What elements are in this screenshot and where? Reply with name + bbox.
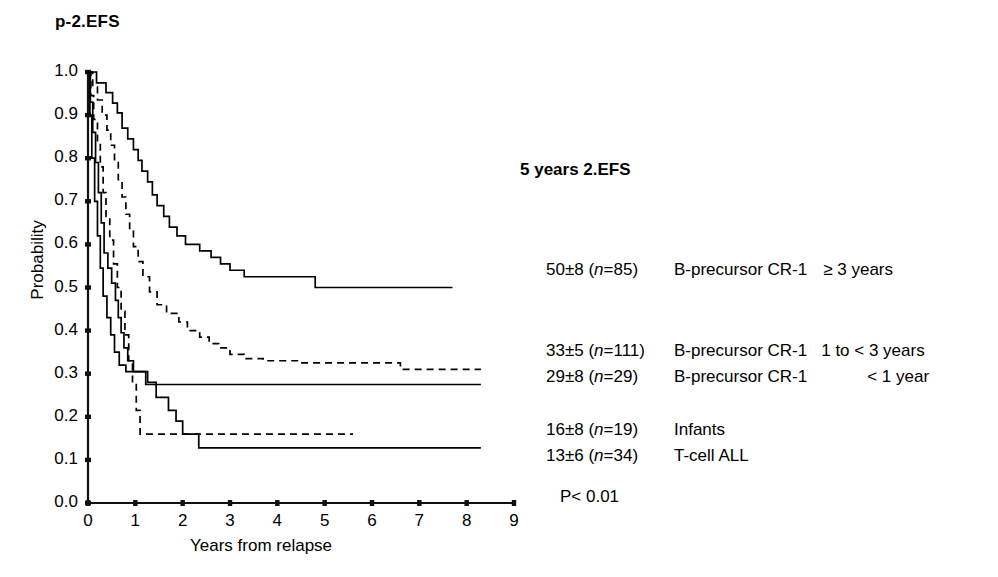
legend-stat: 29±8 (n=29) xyxy=(546,367,674,387)
y-tick-mark xyxy=(85,328,91,332)
y-tick-label: 0.0 xyxy=(36,492,78,512)
x-tick-label: 8 xyxy=(457,511,477,531)
x-tick-mark xyxy=(228,500,232,506)
x-tick-mark xyxy=(86,500,90,506)
x-tick-mark xyxy=(417,500,421,506)
legend-row: 13±6 (n=34) T-cell ALL xyxy=(546,446,749,466)
legend-stat: 13±6 (n=34) xyxy=(546,446,674,466)
x-tick-label: 3 xyxy=(220,511,240,531)
y-tick-label: 0.1 xyxy=(36,449,78,469)
survival-curve xyxy=(88,72,481,448)
x-tick-label: 7 xyxy=(409,511,429,531)
survival-curve xyxy=(88,72,353,434)
legend-row: 16±8 (n=19) Infants xyxy=(546,420,725,440)
survival-curve xyxy=(88,72,481,384)
y-tick-mark xyxy=(85,285,91,289)
x-tick-mark xyxy=(464,500,468,506)
x-tick-mark xyxy=(180,500,184,506)
y-tick-label: 0.2 xyxy=(36,406,78,426)
survival-curves xyxy=(88,72,481,448)
plot-area xyxy=(0,0,998,577)
y-tick-label: 0.9 xyxy=(36,104,78,124)
legend-stat: 50±8 (n=85) xyxy=(546,260,674,280)
survival-curve xyxy=(88,72,452,288)
x-tick-mark xyxy=(512,500,516,506)
y-tick-label: 1.0 xyxy=(36,61,78,81)
legend-row: 29±8 (n=29) B-precursor CR-1< 1 year xyxy=(546,367,929,387)
p-value-annotation: P< 0.01 xyxy=(560,487,619,507)
y-tick-mark xyxy=(85,372,91,376)
y-tick-label: 0.6 xyxy=(36,233,78,253)
page-title: p-2.EFS xyxy=(55,12,120,32)
x-tick-label: 9 xyxy=(504,511,524,531)
survival-curve xyxy=(88,72,481,369)
x-tick-label: 1 xyxy=(125,511,145,531)
x-tick-mark xyxy=(133,500,137,506)
legend-group: Infants xyxy=(674,420,725,440)
x-tick-label: 2 xyxy=(173,511,193,531)
y-tick-mark xyxy=(85,415,91,419)
legend-row: 33±5 (n=111) B-precursor CR-11 to < 3 ye… xyxy=(546,341,925,361)
legend-stat: 16±8 (n=19) xyxy=(546,420,674,440)
x-tick-label: 0 xyxy=(78,511,98,531)
y-tick-label: 0.7 xyxy=(36,190,78,210)
legend-group: B-precursor CR-11 to < 3 years xyxy=(674,341,925,361)
x-tick-label: 5 xyxy=(315,511,335,531)
legend-stat: 33±5 (n=111) xyxy=(546,341,674,361)
y-tick-label: 0.4 xyxy=(36,320,78,340)
y-tick-label: 0.5 xyxy=(36,277,78,297)
x-tick-mark xyxy=(322,500,326,506)
kaplan-meier-figure: p-2.EFS 5 years 2.EFS 50±8 (n=85) B-prec… xyxy=(0,0,998,577)
y-tick-label: 0.8 xyxy=(36,147,78,167)
y-tick-mark xyxy=(85,242,91,246)
y-tick-mark xyxy=(85,199,91,203)
x-tick-mark xyxy=(370,500,374,506)
legend-group: B-precursor CR-1< 1 year xyxy=(674,367,929,387)
x-tick-label: 6 xyxy=(362,511,382,531)
y-tick-mark xyxy=(85,156,91,160)
legend-row: 50±8 (n=85) B-precursor CR-1≥ 3 years xyxy=(546,260,893,280)
y-tick-mark xyxy=(85,458,91,462)
legend-title: 5 years 2.EFS xyxy=(520,160,631,180)
legend-group: B-precursor CR-1≥ 3 years xyxy=(674,260,893,280)
x-tick-mark xyxy=(275,500,279,506)
x-axis-label: Years from relapse xyxy=(190,536,332,556)
legend-group: T-cell ALL xyxy=(674,446,749,466)
x-tick-label: 4 xyxy=(267,511,287,531)
y-tick-label: 0.3 xyxy=(36,363,78,383)
